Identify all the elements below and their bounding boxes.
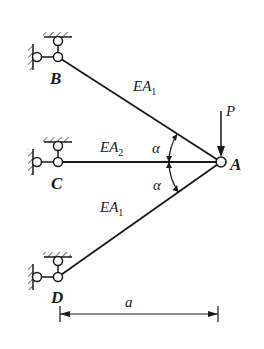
member-label-BA: EA1 — [133, 79, 156, 94]
node-label-A: A — [230, 156, 241, 173]
load-label-P: P — [226, 104, 235, 119]
member-label-DA: EA1 — [100, 200, 123, 215]
node-label-D: D — [51, 289, 63, 306]
angle-arc-upper-icon — [166, 134, 177, 162]
dimension-line — [60, 306, 218, 322]
angle-label-lower: α — [153, 178, 161, 193]
dimension-label-a: a — [125, 295, 133, 310]
angle-arc-lower-icon — [166, 162, 179, 192]
member-label-CA: EA2 — [100, 140, 123, 155]
support-C — [28, 137, 72, 175]
support-B — [28, 32, 72, 70]
member-DA — [58, 162, 221, 277]
member-BA — [58, 57, 221, 162]
load-arrow-icon — [217, 111, 225, 157]
node-A — [216, 157, 226, 167]
node-label-B: B — [50, 70, 61, 87]
angle-label-upper: α — [152, 141, 160, 156]
truss-diagram: B C D A EA1 EA2 EA1 α α P a — [0, 0, 264, 349]
node-label-C: C — [51, 175, 62, 192]
